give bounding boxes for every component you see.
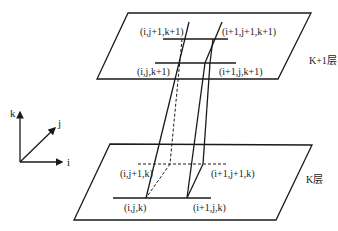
i-axis-label: i [67,156,70,168]
label-lower-i1j: (i+1,j,k) [193,202,226,214]
label-upper-ij1: (i,j+1,k+1) [140,26,184,38]
k-axis-label: k [10,107,16,119]
label-lower-ij1: (i,j+1,k) [120,168,153,180]
j-axis-label: j [57,117,61,129]
label-lower-ij: (i,j,k) [124,202,146,214]
label-upper-ij: (i,j,k+1) [137,66,170,78]
pillar-i1-j1-lower [203,63,210,164]
label-layer-k: K层 [306,174,323,185]
label-lower-i1j1: (i+1,j+1,k) [211,168,255,180]
pillar-i1-j [205,22,222,63]
label-layer-k1: K+1层 [309,55,337,66]
grid-cell-diagram: (i,j+1,k+1) (i+1,j+1,k+1) (i,j,k+1) (i+1… [0,0,338,231]
label-upper-i1j1: (i+1,j+1,k+1) [222,26,276,38]
label-upper-i1j: (i+1,j,k+1) [219,66,263,78]
j-axis [20,128,55,162]
axes-icon: k j i [10,107,70,168]
